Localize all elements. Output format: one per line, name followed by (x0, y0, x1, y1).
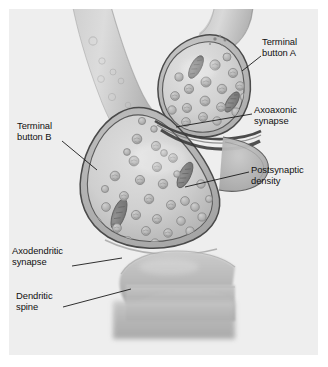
label-terminal-button-b-line2: button B (17, 131, 52, 142)
label-terminal-button-b: Terminal button B (17, 120, 52, 142)
label-terminal-button-a: Terminal button A (262, 36, 297, 58)
label-axodendritic-synapse-line1: Axodendritic (12, 245, 63, 256)
label-terminal-button-a-line2: button A (262, 47, 297, 58)
label-dendritic-spine: Dendritic spine (16, 290, 53, 312)
label-axodendritic-synapse-line2: synapse (12, 256, 63, 267)
dendrite-shaft (113, 285, 235, 339)
label-postsynaptic-density: Postsynaptic density (251, 164, 304, 186)
label-terminal-button-b-line1: Terminal (17, 120, 52, 131)
label-axoaxonic-synapse-line2: synapse (254, 115, 297, 126)
label-dendritic-spine-line1: Dendritic (16, 290, 53, 301)
label-postsynaptic-density-line2: density (251, 175, 304, 186)
label-axoaxonic-synapse-line1: Axoaxonic (254, 104, 297, 115)
label-terminal-button-a-line1: Terminal (262, 36, 297, 47)
figure-synapse-diagram: Terminal button A Axoaxonic synapse Post… (0, 0, 328, 367)
label-postsynaptic-density-line1: Postsynaptic (251, 164, 304, 175)
label-axoaxonic-synapse: Axoaxonic synapse (254, 104, 297, 126)
label-dendritic-spine-line2: spine (16, 301, 53, 312)
label-axodendritic-synapse: Axodendritic synapse (12, 245, 63, 267)
